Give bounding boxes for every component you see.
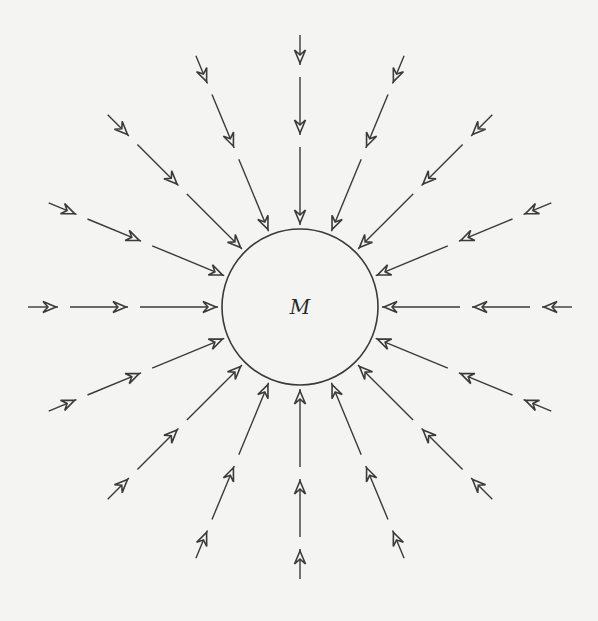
field-line-segment bbox=[239, 383, 269, 455]
field-line bbox=[331, 56, 404, 232]
mass-label: M bbox=[289, 295, 311, 319]
field-line bbox=[196, 383, 269, 559]
field-line bbox=[49, 338, 225, 411]
field-line-segment bbox=[152, 246, 224, 276]
field-line-segment bbox=[187, 365, 242, 420]
field-line-segment bbox=[187, 194, 242, 249]
field-line bbox=[382, 302, 572, 313]
field-line-segment bbox=[358, 194, 413, 249]
diagram-canvas: M bbox=[0, 0, 598, 621]
field-line bbox=[331, 383, 404, 559]
field-line bbox=[28, 302, 218, 313]
field-line bbox=[108, 115, 242, 249]
field-line bbox=[295, 35, 306, 225]
field-line-segment bbox=[239, 159, 269, 231]
field-line-segment bbox=[331, 383, 361, 455]
field-lines-figure: M bbox=[0, 0, 598, 621]
field-line-segment bbox=[152, 338, 224, 368]
field-line-segment bbox=[376, 246, 448, 276]
field-line bbox=[196, 56, 269, 232]
field-line bbox=[295, 389, 306, 579]
field-line bbox=[49, 203, 225, 276]
field-line bbox=[358, 115, 492, 249]
field-line bbox=[358, 365, 492, 499]
field-line-segment bbox=[376, 338, 448, 368]
field-line bbox=[376, 203, 552, 276]
field-line bbox=[108, 365, 242, 499]
field-line-segment bbox=[358, 365, 413, 420]
field-line bbox=[376, 338, 552, 411]
field-line-segment bbox=[331, 159, 361, 231]
